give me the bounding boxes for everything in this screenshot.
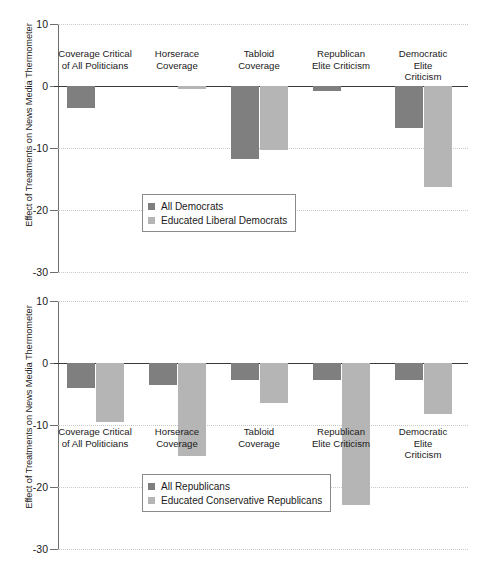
chart-panel-republicans: Effect of Treatments on News Media Therm… [0,290,477,563]
plot-area-top: 100-10-20-30Coverage Critical of All Pol… [58,24,468,272]
bar [260,86,288,150]
legend-item: All Republicans [148,479,322,493]
bar [67,86,95,108]
category-label: Tabloid Coverage [238,426,280,449]
bar [424,86,452,187]
y-axis-tick [50,425,58,426]
bar [395,86,423,128]
y-axis-tick [50,487,58,488]
y-axis-label-bottom: Effect of Treatments on News Media Therm… [24,282,34,532]
chart-legend: All RepublicansEducated Conservative Rep… [142,474,331,512]
gridline [58,549,468,550]
y-axis-tick [50,549,58,550]
y-axis-tick [50,272,58,273]
category-label: Coverage Critical of All Politicians [58,48,132,71]
plot-area-bottom: 100-10-20-30Coverage Critical of All Pol… [58,301,468,549]
y-axis-tick-label: 0 [42,357,48,369]
category-label: Tabloid Coverage [238,48,280,71]
legend-swatch-icon [148,203,155,210]
legend-swatch-icon [148,217,155,224]
legend-item: Educated Conservative Republicans [148,493,322,507]
y-axis-tick [50,148,58,149]
y-axis-tick-label: -20 [33,204,48,216]
y-axis-tick-label: 10 [36,18,48,30]
bar [313,86,341,91]
bar [231,86,259,159]
y-axis-tick [50,210,58,211]
gridline [58,24,468,25]
bar [67,363,95,388]
y-axis-tick [50,24,58,25]
category-label: Horserace Coverage [155,48,199,71]
category-label: Republican Elite Criticism [312,48,370,71]
y-axis-tick [50,301,58,302]
bar [395,363,423,380]
category-label: Coverage Critical of All Politicians [58,426,132,449]
bar [424,363,452,414]
legend-label: All Republicans [161,481,230,492]
figure-root: { "figure": { "background": "#ffffff", "… [0,0,477,563]
y-axis-tick-label: -10 [33,419,48,431]
bar [178,86,206,89]
category-label: Democratic Elite Criticism [399,426,448,461]
bar [260,363,288,403]
legend-label: Educated Liberal Democrats [161,215,287,226]
y-axis-tick-label: -30 [33,543,48,555]
legend-item: Educated Liberal Democrats [148,213,287,227]
gridline [58,272,468,273]
gridline [58,301,468,302]
legend-label: Educated Conservative Republicans [161,495,322,506]
y-axis-tick-label: -20 [33,481,48,493]
legend-label: All Democrats [161,201,223,212]
category-label: Horserace Coverage [155,426,199,449]
y-axis-tick-label: -30 [33,266,48,278]
category-label: Democratic Elite Criticism [399,48,448,83]
legend-item: All Democrats [148,199,287,213]
y-axis-tick-label: 10 [36,295,48,307]
chart-panel-democrats: Effect of Treatments on News Media Therm… [0,0,477,290]
bar [313,363,341,380]
bar [231,363,259,380]
y-axis-tick-label: 0 [42,80,48,92]
legend-swatch-icon [148,483,155,490]
y-axis-tick-label: -10 [33,142,48,154]
category-label: Republican Elite Criticism [312,426,370,449]
bar [149,363,177,385]
bar [96,363,124,422]
chart-legend: All DemocratsEducated Liberal Democrats [142,194,296,232]
legend-swatch-icon [148,497,155,504]
